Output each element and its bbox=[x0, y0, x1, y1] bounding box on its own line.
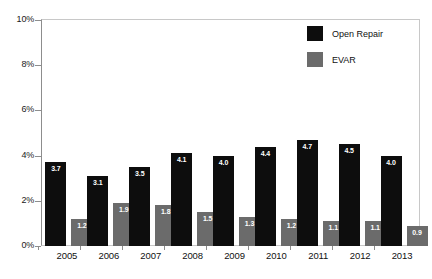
bar-value-label: 0.9 bbox=[407, 229, 428, 237]
legend-item-open-repair: Open Repair bbox=[307, 26, 383, 41]
bar-value-label: 4.7 bbox=[297, 143, 318, 151]
bar-group: 4.41.2 bbox=[255, 20, 302, 246]
y-axis-tick-label: 10% bbox=[0, 14, 34, 24]
bar-open-repair[interactable]: 4.0 bbox=[213, 156, 234, 246]
y-axis-tick-mark bbox=[35, 20, 41, 21]
bar-open-repair[interactable]: 4.5 bbox=[339, 144, 360, 246]
bar-group: 3.51.8 bbox=[129, 20, 176, 246]
legend-label-open-repair: Open Repair bbox=[332, 29, 383, 39]
y-axis-tick-mark bbox=[35, 110, 41, 111]
y-axis-tick-label: 4% bbox=[0, 150, 34, 160]
bar-group: 3.71.2 bbox=[45, 20, 92, 246]
bar-value-label: 3.7 bbox=[45, 165, 66, 173]
legend-item-evar: EVAR bbox=[307, 52, 383, 67]
y-axis-tick-label: 2% bbox=[0, 195, 34, 205]
x-axis-tick-label: 2013 bbox=[372, 250, 432, 261]
bar-group: 4.00.9 bbox=[381, 20, 428, 246]
bar-open-repair[interactable]: 4.0 bbox=[381, 156, 402, 246]
bar-group: 4.11.5 bbox=[171, 20, 218, 246]
y-axis-tick-mark bbox=[35, 65, 41, 66]
chart-legend: Open Repair EVAR bbox=[307, 26, 383, 78]
bar-open-repair[interactable]: 3.5 bbox=[129, 167, 150, 246]
bar-evar[interactable]: 0.9 bbox=[407, 226, 428, 246]
bar-group: 3.11.9 bbox=[87, 20, 134, 246]
y-axis-tick-mark bbox=[35, 201, 41, 202]
bar-open-repair[interactable]: 4.7 bbox=[297, 140, 318, 246]
legend-swatch-open-repair bbox=[307, 26, 323, 41]
bar-open-repair[interactable]: 4.4 bbox=[255, 147, 276, 246]
bar-open-repair[interactable]: 4.1 bbox=[171, 153, 192, 246]
y-axis-tick-mark bbox=[35, 156, 41, 157]
bar-value-label: 4.0 bbox=[213, 159, 234, 167]
bar-value-label: 4.0 bbox=[381, 159, 402, 167]
legend-swatch-evar bbox=[307, 52, 323, 67]
bar-open-repair[interactable]: 3.1 bbox=[87, 176, 108, 246]
y-axis-tick-label: 6% bbox=[0, 104, 34, 114]
y-axis-tick-label: 8% bbox=[0, 59, 34, 69]
legend-label-evar: EVAR bbox=[332, 55, 356, 65]
bar-value-label: 3.5 bbox=[129, 170, 150, 178]
bar-value-label: 4.4 bbox=[255, 150, 276, 158]
bar-value-label: 4.1 bbox=[171, 156, 192, 164]
y-axis-tick-label: 0% bbox=[0, 240, 34, 250]
bar-value-label: 3.1 bbox=[87, 179, 108, 187]
bar-group: 4.01.3 bbox=[213, 20, 260, 246]
bar-value-label: 4.5 bbox=[339, 147, 360, 155]
bar-open-repair[interactable]: 3.7 bbox=[45, 162, 66, 246]
